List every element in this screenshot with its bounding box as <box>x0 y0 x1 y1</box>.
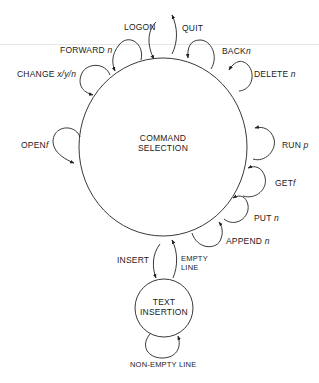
change-loop <box>80 65 110 95</box>
delete-loop <box>229 61 252 91</box>
label-get: GETf <box>275 179 296 188</box>
label-non-empty-line: NON-EMPTY LINE <box>130 361 196 369</box>
command-selection-label: COMMAND SELECTION <box>132 134 194 152</box>
label-empty-line: EMPTY LINE <box>181 255 208 271</box>
run-loop <box>253 127 274 159</box>
quit-arrow <box>172 15 177 54</box>
label-delete: DELETE n <box>254 70 296 79</box>
append-loop <box>192 222 222 247</box>
label-append: APPEND n <box>226 237 270 246</box>
put-loop <box>224 196 248 222</box>
label-forward: FORWARD n <box>60 46 112 55</box>
insert-arrow <box>153 244 160 278</box>
back-loop <box>188 40 214 69</box>
label-change: CHANGE x/y/n <box>17 70 76 79</box>
empty-line-arrow <box>172 240 177 278</box>
label-put: PUT n <box>254 214 279 223</box>
state-diagram: LOGON QUIT FORWARD n BACKn CHANGE x/y/n … <box>0 0 319 383</box>
label-run: RUN p <box>282 141 309 150</box>
label-logon: LOGON <box>124 23 156 32</box>
label-open: OPENf <box>21 141 48 150</box>
non-empty-line-loop <box>146 334 180 358</box>
text-insertion-label: TEXT INSERTION <box>136 298 192 316</box>
label-quit: QUIT <box>182 24 203 33</box>
open-loop <box>53 128 80 163</box>
label-insert: INSERT <box>117 256 149 265</box>
label-back: BACKn <box>222 47 251 56</box>
diagram-graphics <box>0 0 319 383</box>
get-loop <box>243 167 265 197</box>
